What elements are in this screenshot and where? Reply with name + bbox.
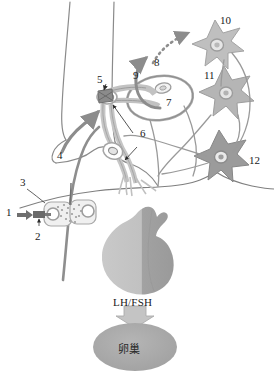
- lh-fsh-label: LH/FSH: [113, 296, 152, 308]
- label-2: 2: [35, 231, 41, 242]
- label-3: 3: [20, 177, 26, 188]
- star-neuron-12: [194, 130, 249, 182]
- label-6: 6: [140, 128, 146, 139]
- label-7: 7: [166, 97, 172, 108]
- injection-arrow-1: [17, 210, 33, 220]
- star-neuron-10: [192, 20, 244, 69]
- ovary-label: 卵巢: [118, 340, 140, 356]
- label-4: 4: [57, 150, 63, 161]
- label-8: 8: [154, 57, 160, 68]
- secretory-cell-cluster: [44, 183, 96, 226]
- label-1: 1: [6, 207, 12, 218]
- diagram-svg: [0, 0, 274, 376]
- figure-canvas: 1 2 3 4 5 6 7 8 9 10 11 12 LH/FSH 卵巢: [0, 0, 274, 376]
- label-10: 10: [220, 15, 231, 26]
- label-12: 12: [249, 155, 260, 166]
- label-5: 5: [97, 74, 103, 85]
- leader-line-3: [27, 189, 45, 203]
- label-11: 11: [204, 70, 215, 81]
- axon-terminal-5: [98, 84, 113, 103]
- label-9: 9: [133, 70, 139, 81]
- pituitary-gland: [102, 207, 174, 295]
